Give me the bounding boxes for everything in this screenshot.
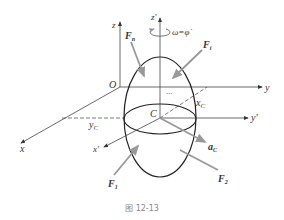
center-c-label: C: [150, 108, 157, 119]
force-fn-label: Fn: [124, 30, 136, 42]
x-axis: [21, 87, 120, 143]
figure-caption: 图 12-13: [125, 204, 159, 213]
origin-label: O: [109, 79, 116, 90]
fixed-axes: [21, 22, 262, 143]
rigid-body-dynamics-diagram: z O y x z′ y′ x′ C ··· ω=φ̇ xC yC Fn Fi …: [0, 0, 284, 220]
force-f1-arrow: [114, 146, 138, 175]
force-fi-label: Fi: [202, 39, 212, 51]
acceleration-ac-arrow: [160, 118, 205, 142]
z-axis-label: z: [111, 20, 116, 30]
acceleration-ac-label: aC: [208, 141, 218, 153]
x-prime-axis-label: x′: [92, 144, 100, 154]
y-axis-label: y: [264, 82, 270, 93]
xc-label: xC: [195, 97, 205, 110]
z-prime-axis-label: z′: [150, 12, 158, 22]
y-prime-axis-label: y′: [250, 112, 258, 123]
x-axis-label: x: [19, 143, 25, 154]
force-f1-label: F1: [107, 178, 118, 190]
ellipsis-label: ···: [166, 89, 172, 98]
rotation-label: ω=φ̇: [172, 27, 192, 37]
x-prime-axis: [104, 118, 160, 147]
force-f2-label: F2: [217, 173, 228, 185]
yc-label: yC: [88, 119, 98, 132]
